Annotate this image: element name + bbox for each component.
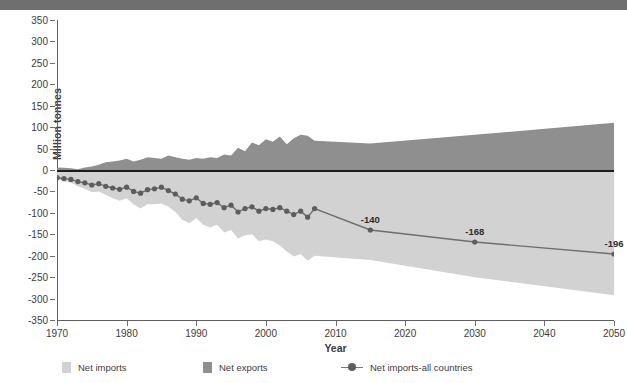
x-tick-mark [196, 321, 197, 326]
x-tick-label: 2020 [394, 328, 416, 339]
net-exports-band [57, 123, 614, 170]
y-tick-label: -50 [34, 186, 48, 197]
y-tick-mark [50, 41, 55, 42]
series-marker [284, 209, 289, 214]
y-tick-label: 0 [42, 165, 48, 176]
y-tick-mark [50, 20, 55, 21]
legend-swatch-net-exports [203, 362, 212, 373]
x-tick-label: 2050 [603, 328, 625, 339]
y-tick-label: 100 [31, 122, 48, 133]
series-marker [298, 209, 303, 214]
y-tick-mark [50, 63, 55, 64]
x-tick-label: 2000 [255, 328, 277, 339]
x-tick-mark [544, 321, 545, 326]
x-tick-mark [475, 321, 476, 326]
y-tick-label: -300 [28, 293, 48, 304]
chart-legend: Net imports Net exports Net imports-all … [0, 358, 627, 383]
chart-container: Million tonnes 350300250200150100500-50-… [0, 10, 627, 383]
y-tick-label: -100 [28, 207, 48, 218]
x-tick-mark [127, 321, 128, 326]
legend-item-net-imports-all-countries[interactable]: Net imports-all countries [341, 358, 472, 376]
x-tick-label: 1970 [46, 328, 68, 339]
y-tick-mark [50, 170, 55, 171]
y-tick-label: 150 [31, 100, 48, 111]
series-marker [173, 191, 178, 196]
y-tick-mark [50, 277, 55, 278]
net-imports-band [57, 170, 614, 295]
y-tick-mark [50, 234, 55, 235]
series-marker [270, 207, 275, 212]
series-marker [96, 181, 101, 186]
legend-swatch-net-imports [62, 362, 71, 373]
series-marker [159, 185, 164, 190]
y-axis-ticks: 350300250200150100500-50-100-150-200-250… [0, 20, 57, 320]
series-marker [124, 185, 129, 190]
y-tick-mark [50, 149, 55, 150]
x-axis-label: Year [57, 342, 614, 354]
y-tick-label: -150 [28, 229, 48, 240]
series-marker [145, 187, 150, 192]
series-marker [368, 227, 373, 232]
legend-item-net-exports[interactable]: Net exports [203, 358, 268, 376]
series-marker [215, 200, 220, 205]
y-tick-mark [50, 299, 55, 300]
x-tick-label: 2010 [324, 328, 346, 339]
x-tick-mark [405, 321, 406, 326]
series-marker [117, 187, 122, 192]
x-tick-label: 1990 [185, 328, 207, 339]
y-tick-label: 300 [31, 36, 48, 47]
y-tick-label: 50 [37, 143, 48, 154]
y-tick-mark [50, 84, 55, 85]
y-tick-mark [50, 320, 55, 321]
series-marker [82, 180, 87, 185]
series-marker [166, 188, 171, 193]
series-marker [194, 195, 199, 200]
series-marker [187, 198, 192, 203]
series-marker [68, 177, 73, 182]
series-marker [75, 179, 80, 184]
series-marker [152, 186, 157, 191]
series-marker [61, 176, 66, 181]
legend-line-marker [348, 363, 356, 371]
series-marker [256, 209, 261, 214]
series-marker [103, 184, 108, 189]
series-marker [110, 185, 115, 190]
series-marker [263, 206, 268, 211]
y-tick-label: 250 [31, 57, 48, 68]
series-marker [291, 212, 296, 217]
series-marker [277, 205, 282, 210]
x-tick-mark [614, 321, 615, 326]
legend-label-net-imports: Net imports [78, 362, 127, 373]
y-tick-mark [50, 106, 55, 107]
x-tick-label: 2030 [464, 328, 486, 339]
y-tick-label: -250 [28, 272, 48, 283]
y-tick-label: 200 [31, 79, 48, 90]
y-tick-label: -200 [28, 250, 48, 261]
series-marker [180, 197, 185, 202]
series-marker [201, 201, 206, 206]
series-marker [249, 204, 254, 209]
y-tick-mark [50, 213, 55, 214]
data-point-label: -168 [465, 226, 484, 237]
x-tick-label: 1980 [116, 328, 138, 339]
x-tick-mark [266, 321, 267, 326]
series-marker [305, 215, 310, 220]
series-marker [228, 203, 233, 208]
data-point-label: -140 [361, 214, 380, 225]
series-marker [222, 205, 227, 210]
series-marker [242, 206, 247, 211]
y-tick-mark [50, 256, 55, 257]
series-marker [138, 191, 143, 196]
series-marker [472, 239, 477, 244]
zero-baseline [57, 170, 614, 172]
x-tick-mark [57, 321, 58, 326]
series-marker [131, 189, 136, 194]
legend-label-net-exports: Net exports [219, 362, 268, 373]
y-tick-mark [50, 127, 55, 128]
y-tick-label: 350 [31, 15, 48, 26]
series-marker [235, 209, 240, 214]
legend-label-net-imports-all-countries: Net imports-all countries [370, 362, 472, 373]
legend-item-net-imports[interactable]: Net imports [62, 358, 127, 376]
data-point-label: -196 [604, 238, 623, 249]
plot-area: -140-168-196 [57, 20, 614, 320]
